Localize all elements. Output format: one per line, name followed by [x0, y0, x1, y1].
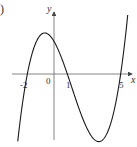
tick-label-0: 0 — [46, 76, 51, 86]
cubic-graph: ) x y -2 0 1 5 — [0, 0, 137, 147]
panel-label: ) — [0, 2, 4, 16]
x-axis-label: x — [130, 74, 136, 85]
y-axis-label: y — [46, 3, 52, 14]
cubic-curve — [18, 15, 128, 142]
